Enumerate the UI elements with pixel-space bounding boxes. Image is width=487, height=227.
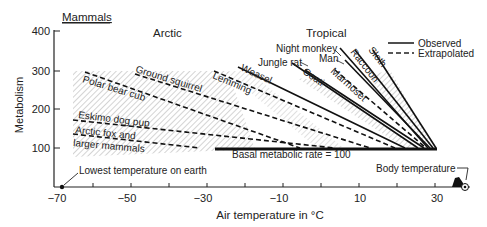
x-tick-m10: −10 xyxy=(270,192,289,204)
label-man: Man xyxy=(319,53,338,64)
x-tick-10: 10 xyxy=(354,192,366,204)
body-temperature-label: Body temperature xyxy=(376,163,456,174)
y-tick-200: 200 xyxy=(32,103,50,115)
label-jungle-rat: Jungle rat xyxy=(258,57,302,68)
y-tick-300: 300 xyxy=(32,65,50,77)
x-axis-label: Air temperature in °C xyxy=(216,209,324,221)
x-tick-30: 30 xyxy=(431,192,443,204)
chart-title: Mammals xyxy=(62,11,112,23)
lowest-temperature-label: Lowest temperature on earth xyxy=(79,165,207,176)
legend-extrapolated: Extrapolated xyxy=(418,48,474,59)
metabolism-chart: 400 300 200 100 −70 −50 −30 −10 10 30 Ma… xyxy=(0,0,487,227)
y-tick-100: 100 xyxy=(32,142,50,154)
y-axis-label: Metabolism xyxy=(13,77,25,133)
y-tick-400: 400 xyxy=(32,25,50,37)
region-label-tropical: Tropical xyxy=(306,27,346,39)
lowest-temp-marker xyxy=(60,185,64,189)
region-label-arctic: Arctic xyxy=(153,27,182,39)
legend: Observed Extrapolated xyxy=(388,38,474,59)
x-tick-m30: −30 xyxy=(194,192,213,204)
basal-rate-label: Basal metabolic rate = 100 xyxy=(232,149,351,160)
x-tick-m70: −70 xyxy=(48,192,67,204)
x-tick-m50: −50 xyxy=(118,192,137,204)
